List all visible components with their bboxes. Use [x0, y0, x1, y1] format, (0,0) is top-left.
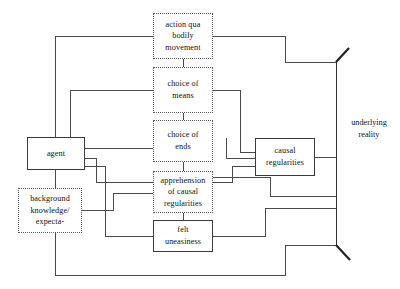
- node-label: choice of means: [165, 78, 200, 101]
- node-label: apprehension of causal regularities: [159, 175, 208, 210]
- diagram-canvas: action qua bodily movement choice of mea…: [0, 0, 400, 289]
- edge-agent-to-felt: [85, 166, 153, 236]
- node-label: felt uneasiness: [163, 224, 203, 247]
- edge-reality-to-apprehension: [213, 177, 336, 196]
- edge-background-to-apprehension: [82, 193, 153, 210]
- node-background-knowledge[interactable]: background knowledge/ expecta-: [18, 188, 82, 233]
- edge-felt-to-reality: [213, 208, 336, 236]
- node-label: agent: [45, 148, 67, 160]
- node-label: action qua bodily movement: [163, 19, 202, 54]
- edge-means-to-causal: [213, 90, 255, 152]
- label-underlying-reality: underlying reality: [340, 117, 398, 140]
- node-action-qua-bodily-movement[interactable]: action qua bodily movement: [153, 13, 213, 59]
- node-apprehension-of-causal-regularities[interactable]: apprehension of causal regularities: [153, 171, 213, 213]
- node-label: causal regularities: [264, 145, 306, 168]
- node-label: background knowledge/ expecta-: [28, 193, 72, 228]
- underlying-reality-bracket-top-tip: [336, 48, 349, 62]
- node-label: choice of ends: [165, 129, 200, 152]
- edge-agent-to-means: [70, 90, 153, 137]
- node-felt-uneasiness[interactable]: felt uneasiness: [153, 220, 213, 252]
- edge-apprehension-to-causal: [213, 166, 255, 182]
- node-causal-regularities[interactable]: causal regularities: [255, 138, 315, 176]
- node-choice-of-ends[interactable]: choice of ends: [153, 120, 213, 162]
- underlying-reality-bracket-bottom-tip: [336, 245, 350, 260]
- node-choice-of-means[interactable]: choice of means: [153, 67, 213, 113]
- edge-agent-to-apprehension: [85, 158, 153, 182]
- edge-action-to-reality: [213, 36, 336, 62]
- node-agent[interactable]: agent: [27, 137, 85, 170]
